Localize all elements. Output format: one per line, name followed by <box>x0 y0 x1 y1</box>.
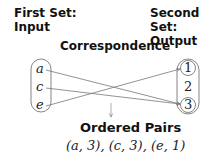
ordered-pairs-text: (a, 3), (c, 3), (e, 1) <box>66 138 185 153</box>
input-element-c: c <box>36 79 43 94</box>
arrow-c-to-3 <box>46 88 180 104</box>
input-element-a: a <box>36 61 44 76</box>
arrow-e-to-1 <box>46 69 180 106</box>
ordered-pairs-title: Ordered Pairs <box>80 121 181 135</box>
output-element-1: 1 <box>184 60 192 75</box>
output-element-3: 3 <box>184 97 192 112</box>
arrow-a-to-3 <box>46 70 180 104</box>
output-element-2: 2 <box>184 79 192 94</box>
input-element-e: e <box>36 97 44 112</box>
